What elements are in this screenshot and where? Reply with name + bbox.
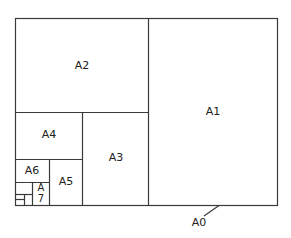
- label-a3: A3: [109, 151, 124, 164]
- label-a5: A5: [59, 175, 74, 188]
- label-a0: A0: [192, 216, 207, 229]
- label-a4: A4: [42, 128, 57, 141]
- label-a6: A6: [25, 164, 40, 177]
- paper-sizes-diagram: A1 A2 A3 A4 A5 A6 A 7 A0: [0, 0, 291, 238]
- label-a1: A1: [206, 105, 221, 118]
- a0-leader-line: [204, 206, 219, 217]
- label-a7-line1: A: [38, 182, 45, 193]
- label-a7-line2: 7: [38, 193, 44, 204]
- label-a2: A2: [75, 59, 90, 72]
